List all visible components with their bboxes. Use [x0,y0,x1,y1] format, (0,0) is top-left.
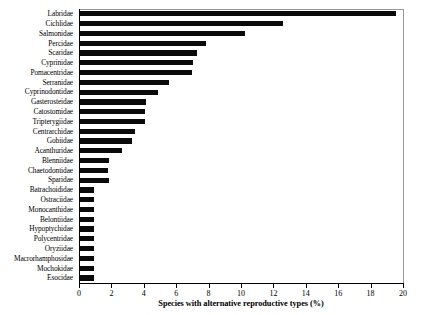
bar-row [80,146,404,156]
bar [80,129,135,134]
bar [80,226,94,231]
category-axis-labels: LabridaeCichlidaeSalmonidaePercidaeScari… [0,9,76,283]
category-label: Oryziidae [0,244,76,254]
bar [80,246,94,251]
bar [80,207,94,212]
bar [80,178,109,183]
bar-chart: LabridaeCichlidaeSalmonidaePercidaeScari… [0,0,435,315]
category-label: Blenniidae [0,156,76,166]
bar-row [80,224,404,234]
category-label: Hypoptychidae [0,224,76,234]
bar-row [80,263,404,273]
bar [80,168,108,173]
category-label: Batrachoididae [0,185,76,195]
bar-row [80,77,404,87]
bar-row [80,107,404,117]
x-axis-tick-label: 0 [77,288,81,299]
category-label: Pomacentridae [0,68,76,78]
bar [80,217,94,222]
category-label: Tripterygiidae [0,117,76,127]
bar [80,266,94,271]
category-label: Cyprinidae [0,58,76,68]
x-axis-tick-label: 16 [334,288,342,299]
bar [80,236,94,241]
x-axis-tick-label: 2 [109,288,113,299]
bar-row [80,68,404,78]
category-label: Cichlidae [0,19,76,29]
category-label: Macrorhamphosidae [0,254,76,264]
category-label: Centrarchidae [0,126,76,136]
bar [80,275,94,280]
x-axis-tick-label: 18 [367,288,375,299]
bar-row [80,234,404,244]
x-axis-tick-label: 8 [207,288,211,299]
bar [80,158,109,163]
bar [80,11,396,16]
x-axis-title: Species with alternative reproductive ty… [79,299,403,308]
x-axis-tick-label: 10 [237,288,245,299]
x-axis-tick-label: 6 [174,288,178,299]
x-axis-tick-label: 12 [269,288,277,299]
bar-row [80,195,404,205]
bar-row [80,19,404,29]
category-label: Esocidae [0,273,76,283]
bar-row [80,244,404,254]
category-label: Salmonidae [0,29,76,39]
category-label: Catostomidae [0,107,76,117]
x-axis-tick-label: 20 [399,288,407,299]
bar-row [80,87,404,97]
bar [80,148,122,153]
bar [80,138,132,143]
bar-row [80,38,404,48]
bar-row [80,58,404,68]
category-label: Gasterosteidae [0,97,76,107]
bar [80,50,197,55]
x-axis-tick-label: 14 [302,288,310,299]
category-label: Labridae [0,9,76,19]
bar-row [80,136,404,146]
bar-row [80,156,404,166]
plot-area [79,9,404,284]
bar-row [80,97,404,107]
bar [80,60,193,65]
bar-row [80,185,404,195]
category-label: Cyprinodontidae [0,87,76,97]
bar-row [80,117,404,127]
bar [80,90,158,95]
bar [80,41,206,46]
bar-row [80,48,404,58]
bar [80,109,145,114]
category-label: Scaridae [0,48,76,58]
bar [80,31,245,36]
bar-row [80,254,404,264]
category-label: Mochokidae [0,263,76,273]
bar [80,119,145,124]
bar-row [80,126,404,136]
bar [80,197,94,202]
category-label: Percidae [0,38,76,48]
bar [80,256,94,261]
bar-row [80,205,404,215]
category-label: Polycentridae [0,234,76,244]
category-label: Serranidae [0,77,76,87]
bar [80,21,283,26]
bar-row [80,9,404,19]
category-label: Acanthuridae [0,146,76,156]
category-label: Belontiidae [0,214,76,224]
bar [80,99,146,104]
bar-row [80,166,404,176]
category-label: Chaetodontidae [0,166,76,176]
category-label: Sparidae [0,175,76,185]
bar [80,80,169,85]
bar [80,187,94,192]
category-label: Ostraciidae [0,195,76,205]
bar-row [80,175,404,185]
bar-row [80,273,404,283]
bar [80,70,192,75]
x-axis-tick-label: 4 [142,288,146,299]
category-label: Monocanthidae [0,205,76,215]
bar-row [80,29,404,39]
bar-row [80,214,404,224]
bars-container [80,9,404,283]
category-label: Gobiidae [0,136,76,146]
